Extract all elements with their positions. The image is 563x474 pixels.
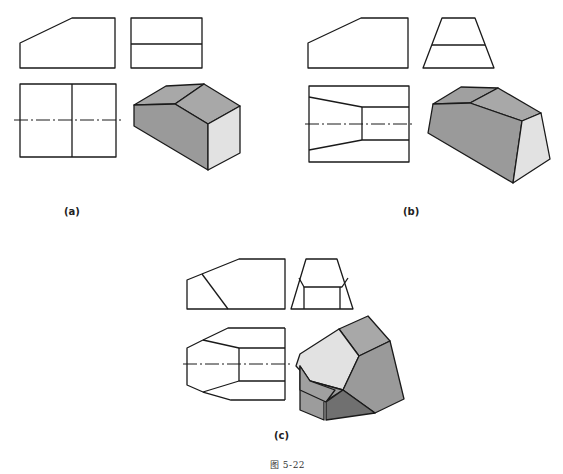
panel-a-label: (a) (64, 206, 80, 217)
panel-c-label: (c) (274, 430, 289, 441)
panel-b-label: (b) (403, 206, 419, 217)
panel-b-isometric (428, 87, 550, 183)
panel-a (14, 18, 240, 170)
panel-a-front-view (20, 18, 115, 68)
panel-c-isometric (296, 316, 404, 420)
panel-a-side-view (131, 18, 202, 68)
panel-b (305, 18, 550, 183)
orthographic-projection-figure (0, 0, 563, 474)
panel-b-top-view (305, 86, 414, 162)
panel-a-top-view (14, 84, 122, 157)
panel-b-front-view (308, 18, 408, 68)
panel-b-side-view (423, 18, 494, 68)
figure-caption: 图 5-22 (270, 458, 305, 471)
panel-c-side-view (291, 259, 353, 309)
panel-c-front-view (187, 259, 285, 309)
panel-c (183, 259, 404, 420)
panel-c-top-view (183, 328, 290, 400)
panel-a-isometric (134, 84, 240, 170)
